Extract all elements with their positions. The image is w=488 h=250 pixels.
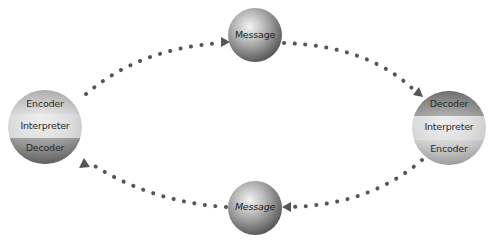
left-encoder-label: Encoder [5,98,85,109]
left-interpreter-label: Interpreter [5,120,85,131]
top-message-label: Message [225,29,285,40]
arrowhead-left-icon [79,158,90,168]
edge-bottom-to-left [90,163,226,207]
bottom-message-label: Message [225,201,285,212]
right-encoder-label: Encoder [409,143,488,154]
left-decoder-label: Decoder [5,142,85,153]
right-decoder-label: Decoder [409,98,488,109]
edge-right-to-bottom [290,160,422,207]
arrowhead-right-icon [413,87,423,97]
edge-top-to-right [284,43,416,92]
edge-left-to-top [86,43,222,94]
right-interpreter-label: Interpreter [409,121,488,132]
